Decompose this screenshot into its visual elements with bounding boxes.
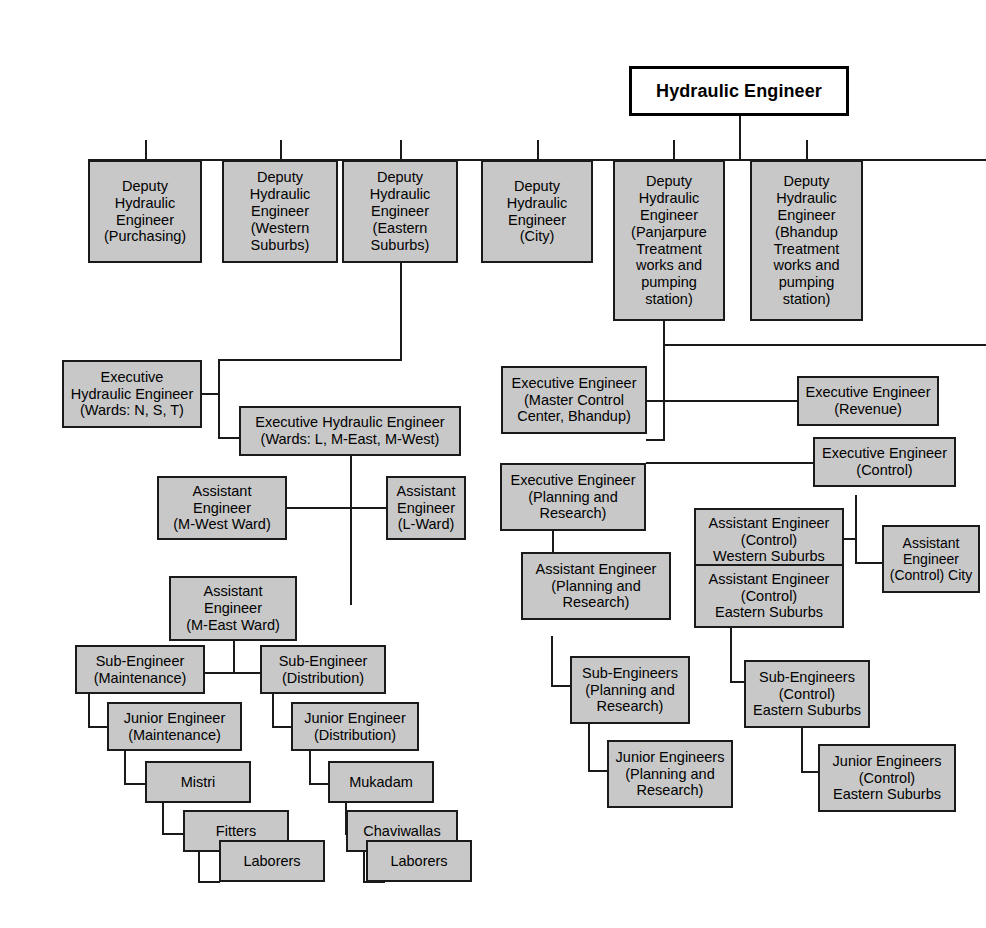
connector-deputy-stem-3 xyxy=(400,140,402,161)
connector-sub-ctrl-east-drop xyxy=(801,728,803,772)
node-sub-engineers-planning[interactable]: Sub-Engineers (Planning and Research) xyxy=(570,656,690,724)
node-sub-engineers-control-eastern[interactable]: Sub-Engineers (Control) Eastern Suburbs xyxy=(744,660,870,728)
node-mistri[interactable]: Mistri xyxy=(145,761,251,803)
node-sub-engineer-maintenance[interactable]: Sub-Engineer (Maintenance) xyxy=(75,645,205,694)
connector-asst-planning-h xyxy=(551,685,571,687)
connector-exec-lmm xyxy=(218,437,240,439)
node-exec-engineer-revenue[interactable]: Executive Engineer (Revenue) xyxy=(797,376,939,426)
connector-elbow-h-sub-dist xyxy=(272,726,292,728)
org-chart: Hydraulic Engineer Deputy Hydraulic Engi… xyxy=(0,0,986,928)
node-asst-engineer-meast-ward[interactable]: Assistant Engineer (M-East Ward) xyxy=(169,576,297,641)
connector-control-city-h xyxy=(855,562,883,564)
node-asst-engineer-lward[interactable]: Assistant Engineer (L-Ward) xyxy=(386,476,466,540)
connector-control-city-v xyxy=(855,538,857,563)
connector-deputy-stem-5 xyxy=(673,140,675,161)
node-exec-engineer-master-control[interactable]: Executive Engineer (Master Control Cente… xyxy=(501,366,647,434)
connector-deputy-stem-1 xyxy=(145,140,147,161)
node-deputy-eastern-suburbs[interactable]: Deputy Hydraulic Engineer (Eastern Subur… xyxy=(342,160,458,263)
node-asst-engineer-control-city[interactable]: Assistant Engineer (Control) City xyxy=(882,525,980,593)
connector-deputy-stem-4 xyxy=(537,140,539,161)
connector-elbow-v-mistri xyxy=(162,803,164,834)
node-exec-hydraulic-wards-nst[interactable]: Executive Hydraulic Engineer (Wards: N, … xyxy=(62,360,202,428)
node-exec-hydraulic-wards-lmm[interactable]: Executive Hydraulic Engineer (Wards: L, … xyxy=(239,406,461,456)
node-sub-engineer-distribution[interactable]: Sub-Engineer (Distribution) xyxy=(260,645,386,694)
node-exec-engineer-control[interactable]: Executive Engineer (Control) xyxy=(813,437,956,487)
connector-revenue-link xyxy=(646,400,798,402)
connector-exec-lmm-drop xyxy=(350,455,352,605)
connector-elbow-h-jr-maint xyxy=(124,783,146,785)
connector-exec-nst xyxy=(200,393,220,395)
connector-right-bus-drop xyxy=(663,344,665,440)
connector-eastern-drop xyxy=(400,263,402,361)
connector-elbow-v-sub-dist xyxy=(272,693,274,727)
connector-elbow-v-chaviwallas xyxy=(363,852,365,882)
connector-elbow-v-jr-maint xyxy=(124,750,126,784)
node-deputy-city[interactable]: Deputy Hydraulic Engineer (City) xyxy=(481,160,593,263)
node-deputy-bhandup[interactable]: Deputy Hydraulic Engineer (Bhandup Treat… xyxy=(750,160,863,321)
node-mukadam[interactable]: Mukadam xyxy=(328,761,434,803)
connector-meast-drop xyxy=(233,641,235,673)
node-junior-engineers-planning[interactable]: Junior Engineers (Planning and Research) xyxy=(607,740,733,808)
connector-elbow-h-fitters xyxy=(198,881,220,883)
node-asst-engineer-mwest-ward[interactable]: Assistant Engineer (M-West Ward) xyxy=(157,476,287,540)
connector-control-link xyxy=(646,462,814,464)
node-junior-engineers-control-eastern[interactable]: Junior Engineers (Control) Eastern Subur… xyxy=(818,744,956,812)
connector-control-drop xyxy=(855,495,857,539)
node-junior-engineer-distribution[interactable]: Junior Engineer (Distribution) xyxy=(291,702,419,751)
connector-elbow-h-mistri xyxy=(162,833,184,835)
node-hydraulic-engineer[interactable]: Hydraulic Engineer xyxy=(629,66,849,116)
node-laborers-distribution[interactable]: Laborers xyxy=(366,840,472,882)
connector-planning-stub xyxy=(646,439,665,441)
node-laborers-maintenance[interactable]: Laborers xyxy=(219,840,325,882)
connector-sub-planning-h xyxy=(588,770,608,772)
node-asst-engineer-planning[interactable]: Assistant Engineer (Planning and Researc… xyxy=(521,552,671,620)
connector-elbow-v-jr-dist xyxy=(309,750,311,784)
node-deputy-purchasing[interactable]: Deputy Hydraulic Engineer (Purchasing) xyxy=(88,160,202,263)
node-asst-engineer-control-eastern[interactable]: Assistant Engineer (Control) Eastern Sub… xyxy=(694,564,844,628)
connector-asst-planning-drop xyxy=(551,636,553,686)
node-deputy-panjarpure[interactable]: Deputy Hydraulic Engineer (Panjarpure Tr… xyxy=(613,160,725,321)
connector-deputy-stem-2 xyxy=(280,140,282,161)
connector-elbow-v-fitters xyxy=(198,852,200,882)
connector-asst-ctrl-east-drop xyxy=(730,628,732,682)
connector-elbow-h-sub-maint xyxy=(88,726,108,728)
node-junior-engineer-maintenance[interactable]: Junior Engineer (Maintenance) xyxy=(107,702,242,751)
node-exec-engineer-planning[interactable]: Executive Engineer (Planning and Researc… xyxy=(500,463,646,531)
connector-elbow-v-sub-maint xyxy=(88,693,90,727)
node-deputy-western-suburbs[interactable]: Deputy Hydraulic Engineer (Western Subur… xyxy=(222,160,338,263)
connector-right-bus xyxy=(663,344,986,346)
node-asst-engineer-control-western[interactable]: Assistant Engineer (Control) Western Sub… xyxy=(694,508,844,572)
connector-right-drop xyxy=(663,320,665,345)
connector-deputy-stem-6 xyxy=(806,140,808,161)
connector-root-stem xyxy=(739,115,741,160)
connector-sub-planning-drop xyxy=(588,723,590,771)
connector-asst-lward-stub xyxy=(350,507,386,509)
connector-eastern-left xyxy=(218,359,402,361)
connector-exec-bus-left xyxy=(218,359,220,439)
